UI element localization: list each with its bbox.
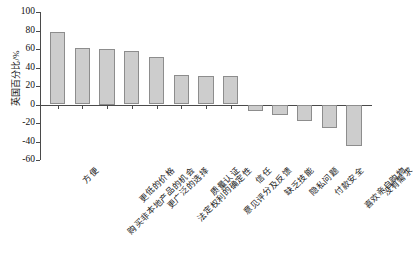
y-axis-line (40, 12, 41, 160)
x-tick-mark (58, 105, 59, 109)
bar (174, 75, 189, 105)
y-tick-label: -20 (22, 118, 35, 128)
y-tick-mark (36, 68, 40, 69)
y-tick-mark (36, 49, 40, 50)
y-tick-label: 60 (26, 44, 36, 54)
x-tick-mark (132, 105, 133, 109)
y-tick-mark (36, 123, 40, 124)
y-tick-label: 80 (26, 26, 36, 36)
bar (248, 105, 263, 111)
x-tick-mark (231, 105, 232, 109)
y-tick-label: 100 (21, 7, 35, 17)
x-category-label: 没有需求 (383, 166, 414, 198)
bar (124, 51, 139, 105)
y-tick-mark (36, 160, 40, 161)
y-tick-label: -40 (22, 137, 35, 147)
y-tick-label: 20 (26, 81, 36, 91)
x-tick-mark (82, 105, 83, 109)
bar (75, 48, 90, 104)
x-tick-mark (206, 105, 207, 109)
bar (149, 57, 164, 104)
y-tick-mark (36, 142, 40, 143)
bar (99, 49, 114, 105)
y-tick-mark (36, 31, 40, 32)
bar (346, 105, 361, 147)
bar (223, 76, 238, 105)
bar (50, 32, 65, 104)
bar (272, 105, 287, 115)
y-tick-label: -60 (22, 155, 35, 165)
bar (297, 105, 312, 122)
bar (322, 105, 337, 128)
x-tick-mark (107, 105, 108, 109)
plot-area (40, 12, 372, 160)
x-tick-mark (181, 105, 182, 109)
x-tick-mark (157, 105, 158, 109)
y-tick-label: 40 (26, 63, 36, 73)
y-tick-mark (36, 12, 40, 13)
y-tick-mark (36, 86, 40, 87)
y-tick-label: 0 (30, 100, 35, 110)
y-tick-mark (36, 105, 40, 106)
bar (198, 76, 213, 105)
